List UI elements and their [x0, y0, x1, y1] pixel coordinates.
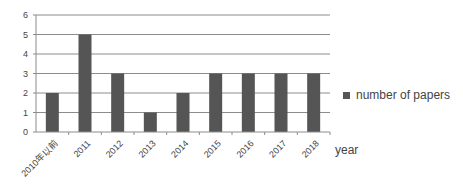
x-tick-label: 2015: [202, 138, 223, 159]
bar: [242, 74, 255, 133]
bar: [275, 74, 288, 133]
legend-swatch-icon: [343, 92, 350, 99]
x-tick-label: 2012: [104, 138, 125, 159]
x-axis-label: year: [335, 143, 358, 157]
bar: [144, 113, 157, 133]
bar: [79, 35, 92, 133]
x-tick-label: 2010年以前: [19, 138, 60, 179]
bar: [111, 74, 124, 133]
x-tick-label: 2018: [300, 138, 321, 159]
legend-label: number of papers: [356, 88, 450, 102]
bar: [307, 74, 320, 133]
bar: [177, 93, 190, 132]
x-tick-label: 2016: [235, 138, 256, 159]
x-tick-label: 2011: [72, 138, 93, 159]
x-tick-label: 2017: [267, 138, 288, 159]
y-axis-ticks: 0123456: [23, 10, 36, 137]
y-tick-label: 1: [23, 108, 28, 118]
y-tick-label: 5: [23, 30, 28, 40]
bar: [209, 74, 222, 133]
x-tick-label: 2014: [169, 138, 190, 159]
legend: number of papers: [343, 88, 450, 102]
x-tick-label: 2013: [137, 138, 158, 159]
y-tick-label: 3: [23, 69, 28, 79]
x-axis-ticks: 2010年以前20112012201320142015201620172018: [19, 132, 330, 179]
bars: [46, 35, 320, 133]
y-tick-label: 0: [23, 127, 28, 137]
y-tick-label: 6: [23, 10, 28, 20]
y-tick-label: 2: [23, 88, 28, 98]
y-tick-label: 4: [23, 49, 28, 59]
bar: [46, 93, 59, 132]
